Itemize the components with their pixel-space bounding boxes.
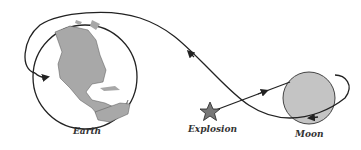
earth-label: Earth: [73, 126, 101, 136]
diagram-canvas: Earth Explosion Moon: [0, 0, 361, 150]
explosion-label: Explosion: [188, 124, 237, 134]
moon-label: Moon: [295, 129, 324, 139]
trajectory-diagram: [0, 0, 361, 150]
explosion-star-icon: [200, 102, 220, 121]
earth-icon: [33, 20, 137, 129]
